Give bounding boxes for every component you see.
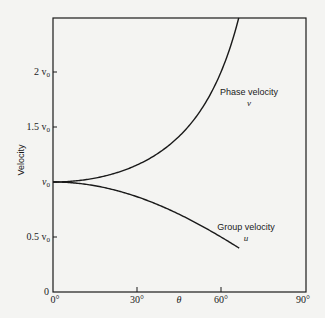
velocity-chart: 0 0.5 v0 v0 1.5 v0 2 v0 0° 30° 60° 90° θ…: [0, 0, 325, 318]
plot-frame: [53, 18, 306, 292]
x-tick-30: 30°: [130, 294, 144, 305]
y-tick-v0: v0: [42, 176, 50, 189]
y-tick-0.5v0: 0.5 v0: [27, 231, 51, 244]
group-velocity-curve: [53, 182, 239, 248]
phase-velocity-label: Phase velocity: [220, 87, 279, 97]
y-tick-0: 0: [44, 286, 49, 297]
y-tick-2v0: 2 v0: [34, 66, 51, 79]
x-axis-label: θ: [177, 294, 182, 305]
y-axis-label: Velocity: [16, 144, 26, 176]
x-tick-0: 0°: [51, 294, 60, 305]
x-axis-ticks: [137, 287, 221, 292]
group-velocity-label: Group velocity: [217, 222, 275, 232]
x-tick-90: 90°: [296, 294, 310, 305]
phase-velocity-curve: [53, 18, 239, 182]
phase-velocity-symbol: v: [247, 98, 251, 108]
x-tick-60: 60°: [214, 294, 228, 305]
group-velocity-symbol: u: [244, 233, 249, 243]
y-tick-1.5v0: 1.5 v0: [27, 121, 51, 134]
